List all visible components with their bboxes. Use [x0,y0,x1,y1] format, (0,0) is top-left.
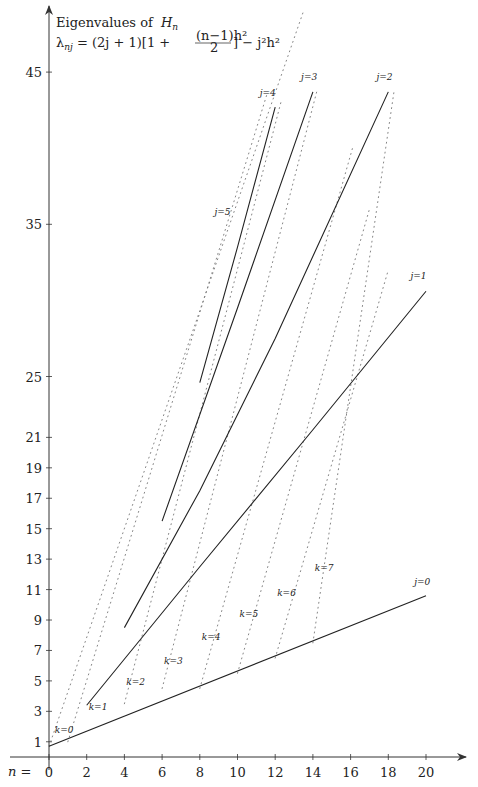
chart-title: Eigenvalues of Hn λnj = (2j + 1)[1 + (n−… [56,15,280,55]
j-line-j1 [87,291,426,705]
annotation-k7: k=7 [315,563,334,573]
j-line-j0 [49,596,426,747]
y-tick-label: 1 [34,735,42,750]
x-tick-label: 10 [229,765,246,780]
annotation-j5: j=5 [212,207,230,217]
k-line-k3 [162,92,317,689]
y-tick-label: 5 [34,674,42,689]
annotation-k3: k=3 [164,656,183,666]
y-tick-label: 9 [34,613,42,628]
annotation-j0: j=0 [412,577,430,587]
k-line-k1 [68,92,268,742]
x-tick-label: 12 [267,765,284,780]
k-line-k7 [313,92,394,643]
formula-lambda-sub: nj [64,42,73,52]
formula-denominator: 2 [210,40,218,55]
j-solid-lines [49,92,426,746]
annotation-j2: j=2 [374,72,392,82]
y-tick-label: 13 [25,552,42,567]
tick-labels: 0246810121416182013579111315171921253545 [25,65,434,780]
y-tick-label: 17 [25,491,42,506]
x-tick-label: 6 [158,765,166,780]
y-tick-label: 21 [25,430,42,445]
annotation-k6: k=6 [277,588,296,598]
svg-text:Eigenvalues of Hn: Eigenvalues of Hn [56,15,178,32]
annotation-k1: k=1 [89,702,108,712]
annotation-k5: k=5 [239,609,258,619]
x-tick-label: 4 [120,765,128,780]
annotation-j4: j=4 [258,88,276,98]
formula: λnj = (2j + 1)[1 + [56,35,170,52]
title-variable: H [160,15,173,30]
y-tick-label: 45 [25,65,42,80]
y-tick-label: 35 [25,217,42,232]
y-tick-label: 19 [25,461,42,476]
y-tick-label: 15 [25,522,42,537]
formula-rhs-b: ] − j²h² [233,35,280,50]
formula-rhs-a: = (2j + 1)[1 + [73,35,170,50]
y-tick-label: 25 [25,370,42,385]
title-subscript: n [172,22,178,32]
k-dotted-lines [49,11,394,746]
j-line-j4 [200,107,275,382]
annotation-k4: k=4 [202,632,221,642]
y-tick-label: 7 [34,643,42,658]
eigenvalue-chart: 0246810121416182013579111315171921253545… [0,0,478,787]
annotation-k2: k=2 [126,677,145,687]
annotation-j3: j=3 [299,72,317,82]
annotation-k0: k=0 [55,725,74,735]
formula-lambda: λ [56,35,64,50]
y-tick-label: 3 [34,704,42,719]
x-tick-label: 20 [418,765,435,780]
x-tick-label: 2 [83,765,91,780]
x-axis-prefix: n = [8,764,31,779]
x-tick-label: 16 [342,765,359,780]
title-text: Eigenvalues of [56,15,154,30]
k-line-k6 [275,270,388,658]
k-line-k0 [49,11,303,746]
x-tick-label: 14 [305,765,322,780]
x-tick-label: 18 [380,765,397,780]
y-tick-label: 11 [25,583,42,598]
annotation-j1: j=1 [408,271,426,281]
j-line-j2 [124,92,388,628]
x-tick-label: 8 [196,765,204,780]
k-line-k4 [200,148,353,688]
axes [10,6,466,770]
x-tick-label: 0 [45,765,53,780]
